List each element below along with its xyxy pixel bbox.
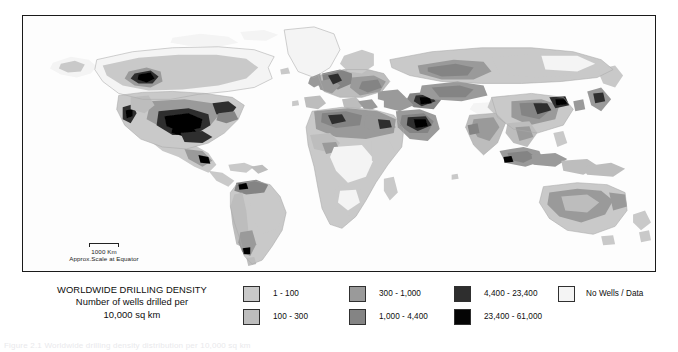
scale-bar: 1000 Km Approx.Scale at Equator	[49, 243, 159, 263]
legend-title-line-1: WORLDWIDE DRILLING DENSITY	[30, 284, 234, 296]
legend-title-line-3: 10,000 sq km	[30, 309, 234, 321]
legend-item: 300 - 1,000	[349, 282, 428, 305]
scale-bar-note-label: Approx.Scale at Equator	[49, 256, 159, 263]
legend-column-1: 1 - 100 100 - 300	[243, 282, 308, 328]
legend-item: 100 - 300	[243, 305, 308, 328]
legend-swatch-label: 23,400 - 61,000	[484, 312, 542, 321]
legend-swatch-label: 4,400 - 23,400	[484, 289, 538, 298]
legend-item: 4,400 - 23,400	[454, 282, 542, 305]
legend-column-3: 4,400 - 23,400 23,400 - 61,000	[454, 282, 542, 328]
legend-swatch-label: 300 - 1,000	[379, 289, 421, 298]
legend-swatch-icon	[349, 286, 366, 302]
legend-item: No Wells / Data	[558, 282, 643, 305]
map-legend: WORLDWIDE DRILLING DENSITY Number of wel…	[0, 282, 678, 332]
legend-swatch-icon	[558, 286, 575, 302]
legend-swatch-label: 1 - 100	[273, 289, 299, 298]
map-canvas: .c0 { fill:#f4f4f4; } /* no wells / data…	[23, 16, 655, 271]
legend-column-4: No Wells / Data	[558, 282, 643, 305]
legend-swatch-icon	[349, 309, 366, 325]
legend-swatch-label: 100 - 300	[273, 312, 308, 321]
legend-item: 1 - 100	[243, 282, 308, 305]
legend-title-block: WORLDWIDE DRILLING DENSITY Number of wel…	[30, 284, 234, 321]
legend-swatch-label: 1,000 - 4,400	[379, 312, 428, 321]
legend-title-line-2: Number of wells drilled per	[30, 296, 234, 308]
legend-swatch-icon	[454, 309, 471, 325]
legend-item: 23,400 - 61,000	[454, 305, 542, 328]
legend-swatch-icon	[243, 309, 260, 325]
world-drilling-density-map: .c0 { fill:#f4f4f4; } /* no wells / data…	[23, 16, 655, 271]
legend-swatch-label: No Wells / Data	[586, 289, 643, 298]
legend-item: 1,000 - 4,400	[349, 305, 428, 328]
cutoff-caption: Figure 2.1 Worldwide drilling density di…	[4, 341, 674, 352]
legend-swatch-icon	[454, 286, 471, 302]
legend-column-2: 300 - 1,000 1,000 - 4,400	[349, 282, 428, 328]
scale-bar-rule	[89, 243, 119, 247]
map-figure: .c0 { fill:#f4f4f4; } /* no wells / data…	[22, 15, 656, 272]
legend-swatch-icon	[243, 286, 260, 302]
